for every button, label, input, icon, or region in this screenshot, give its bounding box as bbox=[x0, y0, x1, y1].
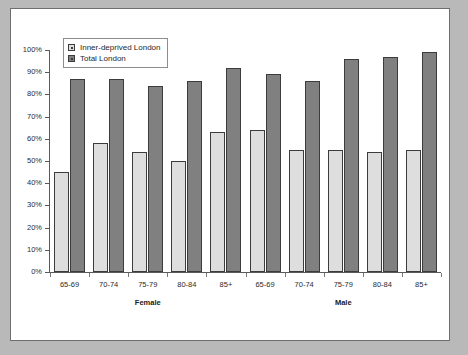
legend-label-total-london: Total London bbox=[80, 54, 126, 63]
bar bbox=[406, 150, 421, 272]
legend-swatch-icon-inner-deprived-london bbox=[68, 44, 75, 51]
category-label: 80-84 bbox=[363, 280, 402, 289]
bar bbox=[54, 172, 69, 272]
y-tick-label: 90% bbox=[8, 68, 42, 76]
y-tick-mark bbox=[45, 161, 50, 162]
bar bbox=[210, 132, 225, 272]
x-tick-mark bbox=[363, 273, 364, 277]
y-tick-label: 80% bbox=[8, 90, 42, 98]
bar bbox=[328, 150, 343, 272]
x-tick-mark bbox=[246, 273, 247, 277]
y-tick-label: 70% bbox=[8, 113, 42, 121]
legend-item-total-london: Total London bbox=[68, 53, 161, 64]
bar bbox=[383, 57, 398, 272]
category-label: 70-74 bbox=[285, 280, 324, 289]
x-tick-mark bbox=[89, 273, 90, 277]
bar bbox=[132, 152, 147, 272]
legend-label-inner-deprived-london: Inner-deprived London bbox=[80, 43, 161, 52]
x-tick-mark bbox=[402, 273, 403, 277]
y-tick-mark bbox=[45, 94, 50, 95]
bar bbox=[93, 143, 108, 272]
x-tick-mark bbox=[167, 273, 168, 277]
y-tick-mark bbox=[45, 50, 50, 51]
y-tick-mark bbox=[45, 72, 50, 73]
group-label: Male bbox=[246, 298, 442, 307]
bar bbox=[367, 152, 382, 272]
y-tick-label: 30% bbox=[8, 201, 42, 209]
chart-legend: Inner-deprived London Total London bbox=[63, 38, 168, 68]
bar bbox=[344, 59, 359, 272]
y-tick-label: 60% bbox=[8, 135, 42, 143]
y-tick-mark bbox=[45, 205, 50, 206]
bar bbox=[187, 81, 202, 272]
y-tick-mark bbox=[45, 228, 50, 229]
bar bbox=[250, 130, 265, 272]
bar bbox=[266, 74, 281, 272]
bar bbox=[422, 52, 437, 272]
y-tick-label: 100% bbox=[8, 46, 42, 54]
x-tick-mark bbox=[285, 273, 286, 277]
screenshot-root: 0%10%20%30%40%50%60%70%80%90%100% 65-697… bbox=[0, 0, 468, 355]
category-label: 85+ bbox=[206, 280, 245, 289]
x-tick-mark bbox=[206, 273, 207, 277]
category-label: 70-74 bbox=[89, 280, 128, 289]
category-label: 65-69 bbox=[246, 280, 285, 289]
bar bbox=[70, 79, 85, 272]
y-tick-mark bbox=[45, 250, 50, 251]
bar bbox=[226, 68, 241, 272]
category-label: 75-79 bbox=[128, 280, 167, 289]
y-tick-mark bbox=[45, 117, 50, 118]
y-tick-mark bbox=[45, 139, 50, 140]
bar bbox=[305, 81, 320, 272]
category-label: 80-84 bbox=[167, 280, 206, 289]
legend-swatch-icon-total-london bbox=[68, 55, 75, 62]
y-tick-label: 10% bbox=[8, 246, 42, 254]
chart-frame: 0%10%20%30%40%50%60%70%80%90%100% 65-697… bbox=[10, 8, 450, 341]
legend-item-inner-deprived-london: Inner-deprived London bbox=[68, 42, 161, 53]
x-tick-mark bbox=[50, 273, 51, 277]
category-label: 75-79 bbox=[324, 280, 363, 289]
bar bbox=[171, 161, 186, 272]
group-label: Female bbox=[50, 298, 246, 307]
bar bbox=[289, 150, 304, 272]
y-tick-mark bbox=[45, 183, 50, 184]
y-tick-label: 40% bbox=[8, 179, 42, 187]
bar bbox=[148, 86, 163, 272]
plot-area: 0%10%20%30%40%50%60%70%80%90%100% 65-697… bbox=[11, 9, 451, 342]
x-tick-mark bbox=[128, 273, 129, 277]
y-tick-label: 0% bbox=[8, 268, 42, 276]
bar bbox=[109, 79, 124, 272]
category-label: 65-69 bbox=[50, 280, 89, 289]
x-tick-mark bbox=[324, 273, 325, 277]
x-tick-mark bbox=[441, 273, 442, 277]
y-tick-label: 20% bbox=[8, 224, 42, 232]
y-tick-label: 50% bbox=[8, 157, 42, 165]
category-label: 85+ bbox=[402, 280, 441, 289]
